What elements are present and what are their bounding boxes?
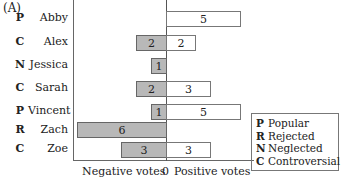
- row-name: Abby: [28, 11, 68, 24]
- row-name: Jessica: [28, 58, 68, 71]
- x-axis-label-negative: Negative votes: [82, 165, 165, 178]
- row-name: Sarah: [28, 81, 68, 94]
- row-name: Zach: [28, 123, 68, 136]
- legend-item-controversial: CControversial: [256, 155, 338, 168]
- positive-bar: 2: [166, 35, 196, 51]
- legend-key: R: [256, 130, 268, 143]
- negative-bar: 6: [77, 122, 167, 138]
- row-category-code: C: [13, 142, 27, 155]
- legend-item-popular: PPopular: [256, 117, 338, 130]
- x-axis-label-zero: 0: [162, 165, 169, 178]
- row-name: Alex: [28, 35, 68, 48]
- positive-bar: 5: [166, 104, 241, 120]
- row-category-code: N: [13, 58, 27, 71]
- negative-bar: 1: [151, 58, 167, 74]
- negative-bar: 3: [121, 142, 167, 158]
- row-name: Zoe: [28, 142, 68, 155]
- negative-bar: 1: [151, 104, 167, 120]
- legend-label: Popular: [268, 117, 309, 129]
- legend: PPopular RRejected NNeglected CControver…: [251, 113, 339, 171]
- row-category-code: R: [13, 123, 27, 136]
- row-name: Vincent: [28, 104, 68, 117]
- row-category-code: C: [13, 35, 27, 48]
- legend-key: N: [256, 142, 268, 155]
- positive-bar: 3: [166, 142, 211, 158]
- legend-label: Controversial: [268, 155, 340, 167]
- positive-bar: 5: [166, 11, 241, 27]
- legend-key: C: [256, 155, 268, 168]
- legend-label: Rejected: [268, 130, 315, 142]
- positive-bar: 3: [166, 81, 211, 97]
- row-category-code: C: [13, 81, 27, 94]
- legend-item-neglected: NNeglected: [256, 142, 338, 155]
- legend-item-rejected: RRejected: [256, 130, 338, 143]
- row-category-code: P: [13, 104, 27, 117]
- row-category-code: P: [13, 11, 27, 24]
- negative-bar: 2: [136, 35, 167, 51]
- legend-label: Neglected: [268, 142, 323, 154]
- legend-key: P: [256, 117, 268, 130]
- negative-bar: 2: [136, 81, 167, 97]
- x-axis-label-positive: Positive votes: [174, 165, 250, 178]
